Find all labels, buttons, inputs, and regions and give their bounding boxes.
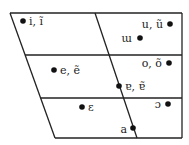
vowel-label: ɯ <box>122 32 133 45</box>
vowel-point: a <box>120 123 135 136</box>
vowel-point: i, ĩ <box>20 15 43 28</box>
vowel-point: e, ẽ <box>51 64 80 77</box>
front-diagonal-edge <box>10 13 55 138</box>
vowel-trapezoid-diagram: i, ĩu, ũɯe, ẽo, õɐ, ɐ̃ɛɔa <box>0 0 189 145</box>
vowel-dot <box>20 18 26 24</box>
vowel-point: ɔ <box>155 98 171 111</box>
vowel-points: i, ĩu, ũɯe, ẽo, õɐ, ɐ̃ɛɔa <box>20 15 173 136</box>
vowel-label: u, ũ <box>142 18 163 31</box>
vowel-label: ɐ, ɐ̃ <box>125 80 146 93</box>
vowel-point: ɛ <box>79 101 94 114</box>
vowel-point: u, ũ <box>142 18 173 31</box>
vowel-label: ɛ <box>88 101 94 114</box>
vowel-dot <box>165 101 171 107</box>
vowel-dot <box>137 35 143 41</box>
vowel-label: o, õ <box>142 57 163 70</box>
vowel-dot <box>166 60 172 66</box>
vowel-dot <box>51 67 57 73</box>
vowel-label: i, ĩ <box>29 15 44 28</box>
vowel-point: o, õ <box>142 57 172 70</box>
vowel-label: ɔ <box>155 98 161 111</box>
vowel-dot <box>130 125 136 131</box>
vowel-label: a <box>120 123 127 136</box>
trapezoid-frame <box>10 13 182 138</box>
vowel-dot <box>116 83 122 89</box>
vowel-dot <box>79 104 85 110</box>
vowel-point: ɯ <box>122 32 143 45</box>
vowel-label: e, ẽ <box>60 64 80 77</box>
vowel-dot <box>167 21 173 27</box>
